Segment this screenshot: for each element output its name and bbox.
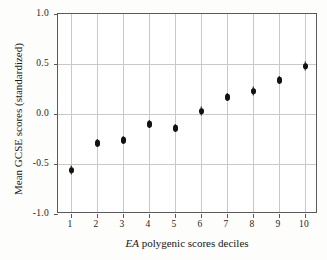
x-axis-tick-label: 1 bbox=[67, 219, 72, 229]
chart-figure: Mean GCSE scores (standardized) EA polyg… bbox=[0, 0, 327, 260]
marker-dot bbox=[303, 63, 308, 70]
marker-dot bbox=[225, 94, 230, 101]
x-axis-tick-label: 4 bbox=[145, 219, 150, 229]
x-gridline bbox=[279, 14, 280, 212]
x-axis-tick-label: 10 bbox=[299, 219, 309, 229]
y-axis-label: Mean GCSE scores (standardized) bbox=[12, 19, 24, 219]
y-axis-tick-label: -0.5 bbox=[0, 158, 49, 168]
data-point bbox=[119, 136, 128, 144]
x-gridline bbox=[71, 14, 72, 212]
x-axis-tick-label: 8 bbox=[249, 219, 254, 229]
x-axis-tick bbox=[305, 214, 306, 218]
data-point bbox=[301, 62, 310, 71]
marker-dot bbox=[173, 125, 178, 132]
x-axis-tick bbox=[71, 214, 72, 218]
data-point bbox=[197, 107, 206, 116]
x-gridline bbox=[305, 14, 306, 212]
x-axis-tick bbox=[253, 214, 254, 218]
x-axis-tick-label: 6 bbox=[197, 219, 202, 229]
y-axis-tick-label: -1.0 bbox=[0, 208, 49, 218]
x-gridline bbox=[175, 14, 176, 212]
x-axis-tick bbox=[175, 214, 176, 218]
y-axis-tick bbox=[54, 214, 58, 215]
y-axis-tick-label: 0.0 bbox=[0, 108, 49, 118]
x-axis-tick bbox=[149, 214, 150, 218]
data-point bbox=[145, 120, 154, 128]
marker-dot bbox=[199, 108, 204, 115]
x-gridline bbox=[123, 14, 124, 212]
x-gridline bbox=[149, 14, 150, 212]
x-axis-tick bbox=[123, 214, 124, 218]
x-gridline bbox=[97, 14, 98, 212]
x-gridline bbox=[227, 14, 228, 212]
x-axis-label-rest: polygenic scores deciles bbox=[139, 237, 249, 249]
y-axis-tick-label: 0.5 bbox=[0, 58, 49, 68]
y-axis-tick bbox=[54, 14, 58, 15]
x-axis-label-italic: EA bbox=[125, 237, 138, 249]
marker-dot bbox=[147, 121, 152, 128]
plot-area bbox=[57, 13, 317, 213]
y-axis-tick bbox=[54, 64, 58, 65]
x-axis-tick-label: 5 bbox=[171, 219, 176, 229]
y-axis-tick bbox=[54, 114, 58, 115]
marker-dot bbox=[95, 140, 100, 147]
x-axis-tick-label: 7 bbox=[223, 219, 228, 229]
marker-dot bbox=[251, 88, 256, 95]
x-axis-tick-label: 3 bbox=[119, 219, 124, 229]
marker-dot bbox=[277, 77, 282, 84]
data-point bbox=[93, 139, 102, 147]
y-axis-tick-label: 1.0 bbox=[0, 8, 49, 18]
x-axis-tick bbox=[201, 214, 202, 218]
x-axis-tick-label: 2 bbox=[93, 219, 98, 229]
data-point bbox=[223, 93, 232, 101]
y-axis-tick bbox=[54, 164, 58, 165]
data-point bbox=[67, 166, 76, 175]
marker-dot bbox=[121, 137, 126, 144]
data-point bbox=[275, 76, 284, 84]
x-axis-tick bbox=[279, 214, 280, 218]
x-gridline bbox=[253, 14, 254, 212]
x-axis-tick bbox=[97, 214, 98, 218]
x-axis-label: EA polygenic scores deciles bbox=[57, 237, 317, 249]
data-point bbox=[171, 124, 180, 132]
marker-dot bbox=[69, 167, 74, 174]
data-point bbox=[249, 87, 258, 96]
x-axis-tick bbox=[227, 214, 228, 218]
x-axis-tick-label: 9 bbox=[275, 219, 280, 229]
